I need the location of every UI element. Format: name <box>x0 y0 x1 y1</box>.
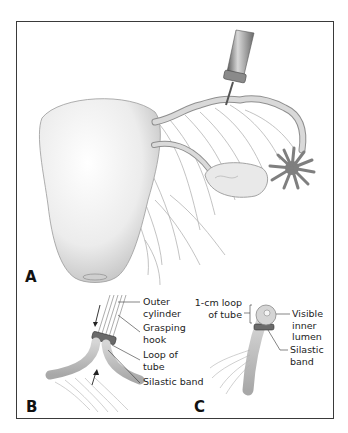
cervix-os <box>83 274 107 280</box>
panel-b-drawing <box>50 295 140 412</box>
applicator-instrument <box>223 30 254 105</box>
tube-loop-b <box>50 342 96 375</box>
annotation-outer-cylinder: Outer cylinder <box>143 296 181 319</box>
panel-label-b: B <box>26 398 37 416</box>
ovary <box>205 163 268 198</box>
panel-label-a: A <box>25 268 37 286</box>
annotation-line: inner <box>292 320 323 332</box>
annotation-line: Loop of <box>143 349 178 361</box>
annotation-line: Grasping <box>143 322 186 334</box>
annotation-line: Outer <box>143 296 181 308</box>
annotation-1cm-loop: 1-cm loop of tube <box>194 297 242 320</box>
annotation-line: lumen <box>292 331 323 343</box>
annotation-loop-of-tube: Loop of tube <box>143 349 178 372</box>
inner-lumen <box>264 310 270 316</box>
annotation-line: cylinder <box>143 308 181 320</box>
annotation-grasping-hook: Grasping hook <box>143 322 186 345</box>
annotation-line: Silastic <box>290 344 324 356</box>
annotation-line: tube <box>143 361 178 373</box>
annotation-line: Silastic band <box>143 376 204 388</box>
annotation-visible-inner-lumen: Visible inner lumen <box>292 308 323 343</box>
panel-label-c: C <box>194 398 205 416</box>
annotation-line: band <box>290 356 324 368</box>
annotation-line: Visible <box>292 308 323 320</box>
annotation-line: hook <box>143 334 186 346</box>
tube-c <box>248 320 262 390</box>
annotation-silastic-band-c: Silastic band <box>290 344 324 367</box>
annotation-silastic-band-b: Silastic band <box>143 376 204 388</box>
panel-a-drawing <box>39 30 314 285</box>
annotation-line: 1-cm loop <box>194 297 242 309</box>
annotation-line: of tube <box>194 309 242 321</box>
uterus <box>39 99 160 283</box>
